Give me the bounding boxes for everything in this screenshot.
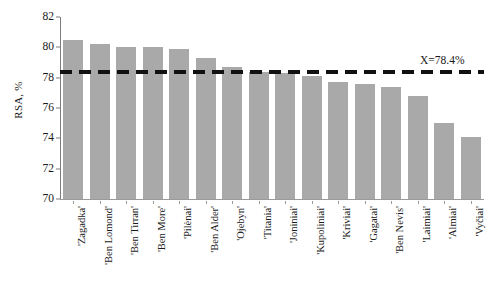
x-tick-label: 'Ojebyn' (236, 206, 247, 241)
bar (328, 82, 348, 199)
x-tick-mark (312, 201, 313, 204)
bar (222, 67, 242, 199)
x-tick-label: 'Kriviai' (342, 206, 353, 240)
x-tick-label: 'Ben Tirran' (130, 206, 141, 255)
bar (434, 123, 454, 199)
bar (302, 76, 322, 199)
x-tick-mark (153, 201, 154, 204)
y-tick-mark (56, 138, 60, 139)
x-tick-mark (418, 201, 419, 204)
x-tick-label: 'Ben More' (157, 206, 168, 252)
bars-layer (60, 17, 484, 199)
x-tick-label: 'Almiai' (448, 206, 459, 239)
y-axis-title: RSA, % (6, 0, 30, 200)
x-tick-label: 'Zagadka' (77, 206, 88, 246)
bar (381, 87, 401, 199)
x-tick-mark (365, 201, 366, 204)
x-tick-mark (100, 201, 101, 204)
x-axis-labels: 'Zagadka''Ben Lomond''Ben Tirran''Ben Mo… (60, 201, 484, 288)
x-tick-label: 'Kupoliniai' (316, 206, 327, 255)
y-tick-mark (56, 77, 60, 78)
mean-reference-line (60, 70, 484, 74)
y-tick-mark (56, 108, 60, 109)
y-axis-title-text: RSA, % (12, 81, 24, 118)
rsa-bar-chart: RSA, % 70727476788082 X=78.4% 'Zagadka''… (0, 0, 492, 288)
x-tick-mark (73, 201, 74, 204)
x-tick-mark (179, 201, 180, 204)
x-tick-label: 'Ben Nevis' (395, 206, 406, 254)
x-tick-mark (471, 201, 472, 204)
y-tick-mark (56, 47, 60, 48)
x-tick-mark (232, 201, 233, 204)
x-tick-label: 'Titania' (263, 206, 274, 239)
y-tick-mark (56, 168, 60, 169)
x-tick-label: 'Gagatai' (369, 206, 380, 242)
y-tick-mark (56, 17, 60, 18)
x-tick-mark (285, 201, 286, 204)
x-tick-label: 'Joniniai' (289, 206, 300, 243)
mean-line-label: X=78.4% (420, 55, 465, 67)
x-tick-label: 'Laimiai' (422, 206, 433, 242)
bar (63, 40, 83, 199)
x-tick-label: 'Ben Lomond' (104, 206, 115, 265)
x-tick-label: 'Vyčiai' (475, 206, 486, 237)
bar (461, 137, 481, 199)
x-tick-label: 'Pilėnai' (183, 206, 194, 239)
x-tick-label: 'Ben Alder' (210, 206, 221, 253)
x-tick-mark (444, 201, 445, 204)
bar (249, 72, 269, 199)
bar (355, 84, 375, 199)
bar (196, 58, 216, 199)
x-tick-mark (391, 201, 392, 204)
x-axis-line (60, 199, 484, 200)
x-tick-mark (206, 201, 207, 204)
bar (275, 73, 295, 199)
y-tick-mark (56, 199, 60, 200)
x-tick-mark (126, 201, 127, 204)
x-tick-mark (338, 201, 339, 204)
bar (90, 44, 110, 199)
x-tick-mark (259, 201, 260, 204)
plot-area: 70727476788082 X=78.4% (60, 17, 484, 199)
bar (408, 96, 428, 199)
